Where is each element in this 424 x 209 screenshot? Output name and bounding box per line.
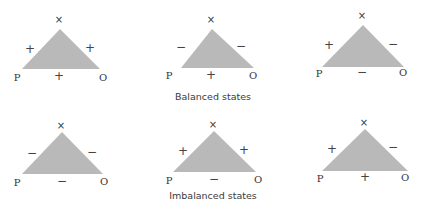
node-label-p: P bbox=[14, 72, 21, 83]
base-edge-sign: − bbox=[357, 65, 367, 79]
imbalanced-triangle-1: × − − P − O bbox=[14, 120, 108, 188]
base-edge-sign: + bbox=[54, 69, 64, 83]
imbalanced-triangle-2: × + + P − O bbox=[166, 119, 262, 186]
left-edge-sign: + bbox=[178, 144, 188, 158]
apex-label-x: × bbox=[55, 14, 63, 25]
node-label-o: O bbox=[399, 67, 407, 78]
balanced-triangle-3: × + − P − O bbox=[316, 10, 407, 79]
node-label-p: P bbox=[316, 68, 323, 79]
right-edge-sign: + bbox=[239, 143, 249, 157]
node-label-o: O bbox=[100, 176, 108, 187]
apex-label-x: × bbox=[360, 117, 368, 128]
apex-label-x: × bbox=[209, 119, 217, 130]
base-edge-sign: − bbox=[209, 172, 219, 186]
node-label-o: O bbox=[99, 72, 107, 83]
node-label-p: P bbox=[317, 173, 324, 184]
base-edge-sign: + bbox=[360, 170, 370, 184]
right-edge-sign: + bbox=[85, 41, 95, 55]
imbalanced-triangle-3: × + − P + O bbox=[317, 117, 409, 184]
node-label-p: P bbox=[14, 177, 21, 188]
right-edge-sign: − bbox=[388, 140, 398, 154]
node-label-o: O bbox=[401, 172, 409, 183]
node-label-p: P bbox=[166, 175, 173, 186]
node-label-o: O bbox=[254, 174, 262, 185]
left-edge-sign: + bbox=[324, 38, 334, 52]
balanced-triangle-2: × − − P + O bbox=[166, 14, 257, 82]
right-edge-sign: − bbox=[388, 37, 398, 51]
left-edge-sign: − bbox=[176, 40, 186, 54]
base-edge-sign: − bbox=[57, 174, 67, 188]
node-label-o: O bbox=[249, 70, 257, 81]
apex-label-x: × bbox=[57, 120, 65, 131]
right-edge-sign: − bbox=[87, 145, 97, 159]
right-edge-sign: − bbox=[236, 39, 246, 53]
base-edge-sign: + bbox=[206, 68, 216, 82]
apex-label-x: × bbox=[358, 10, 366, 21]
node-label-p: P bbox=[166, 70, 173, 81]
apex-label-x: × bbox=[207, 14, 215, 25]
left-edge-sign: − bbox=[27, 146, 37, 160]
imbalanced-states-caption: Imbalanced states bbox=[169, 190, 257, 201]
balance-theory-diagram: × + + P + O × − − P + O × + − P − O Bala… bbox=[0, 0, 424, 209]
balanced-states-caption: Balanced states bbox=[175, 91, 251, 102]
balanced-triangle-1: × + + P + O bbox=[14, 14, 107, 83]
left-edge-sign: + bbox=[25, 42, 35, 56]
left-edge-sign: + bbox=[327, 142, 337, 156]
